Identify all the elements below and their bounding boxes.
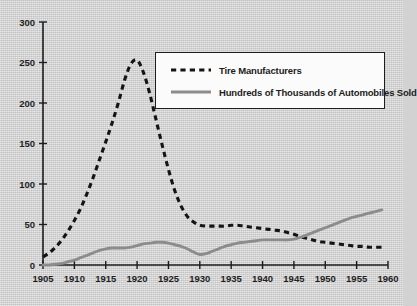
x-tick-label: 1920 [127,273,148,284]
solid-line-swatch [170,86,212,98]
x-tick-label: 1905 [32,273,54,284]
x-axis-group: 1905191019151920192519301935194019451950… [32,261,398,284]
y-tick-label: 0 [30,260,35,271]
y-tick-label: 200 [19,98,35,109]
series-line-automobiles-sold [43,210,382,265]
x-tick-label: 1940 [252,273,273,284]
x-tick-label: 1930 [189,273,210,284]
x-tick-label: 1915 [95,273,117,284]
legend-item-tire-manufacturers: Tire Manufacturers [170,63,302,77]
x-tick-label: 1945 [283,273,305,284]
chart-legend: Tire Manufacturers Hundreds of Thousands… [155,52,385,109]
x-tick-label: 1925 [158,273,180,284]
y-tick-label: 150 [19,138,35,149]
x-tick-label: 1910 [64,273,85,284]
legend-label-tire-manufacturers: Tire Manufacturers [219,65,302,76]
legend-label-automobiles-sold: Hundreds of Thousands of Automobiles Sol… [219,87,417,98]
x-tick-label: 1935 [221,273,243,284]
x-tick-label: 1960 [377,273,398,284]
y-tick-label: 250 [19,57,35,68]
x-tick-label: 1955 [346,273,368,284]
dashed-line-swatch [170,64,212,76]
y-axis-group: 050100150200250300 [19,17,47,271]
x-tick-label: 1950 [315,273,336,284]
y-tick-label: 300 [19,17,35,28]
y-tick-label: 100 [19,179,35,190]
y-tick-label: 50 [24,219,35,230]
legend-item-automobiles-sold: Hundreds of Thousands of Automobiles Sol… [170,85,417,99]
